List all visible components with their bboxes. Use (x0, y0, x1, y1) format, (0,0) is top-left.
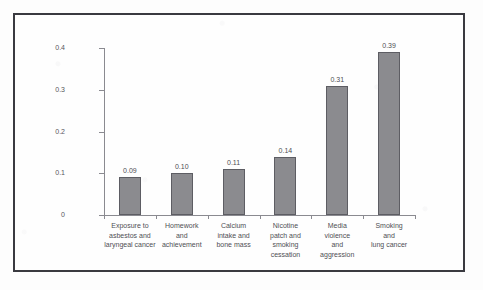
bar-value-label: 0.10 (175, 163, 189, 170)
bar-series: 0.090.100.110.140.310.39 (104, 48, 415, 215)
y-axis-tick-label: 0.1 (25, 169, 65, 176)
bar[interactable] (119, 177, 141, 215)
x-axis-category-label: Mediaviolenceandaggression (311, 221, 363, 259)
category-label-line: Nicotine (260, 221, 312, 231)
category-label-line: intake and (208, 231, 260, 241)
y-axis-tick-label: 0 (25, 211, 65, 218)
category-label-line: and (156, 231, 208, 241)
bar-slot: 0.39 (363, 48, 415, 215)
bar-slot: 0.09 (104, 48, 156, 215)
x-axis-category-labels: Exposure toasbestos andlaryngeal cancerH… (104, 221, 415, 271)
x-axis-tick (208, 215, 209, 219)
bar-value-label: 0.11 (227, 159, 240, 166)
bar-value-label: 0.14 (279, 147, 293, 154)
category-label-line: Exposure to (104, 221, 156, 231)
category-label-line: Calcium (208, 221, 260, 231)
chart-frame-border: 00.10.20.30.4 0.090.100.110.140.310.39 E… (13, 13, 465, 272)
category-label-line: and (363, 231, 415, 241)
x-axis-category-label: Exposure toasbestos andlaryngeal cancer (104, 221, 156, 250)
category-label-line: violence (311, 231, 363, 241)
bar[interactable] (223, 169, 245, 215)
bar[interactable] (274, 157, 296, 215)
bar-slot: 0.14 (260, 48, 312, 215)
category-label-line: Media (311, 221, 363, 231)
bar[interactable] (171, 173, 193, 215)
category-label-line: Homework (156, 221, 208, 231)
bar-slot: 0.31 (311, 48, 363, 215)
x-axis-category-label: Nicotinepatch andsmokingcessation (260, 221, 312, 259)
y-axis-tick-label: 0.2 (25, 128, 65, 135)
bar-value-label: 0.39 (382, 42, 396, 49)
bar-slot: 0.10 (156, 48, 208, 215)
category-label-line: bone mass (208, 240, 260, 250)
x-axis-tick (104, 215, 105, 219)
category-label-line: patch and (260, 231, 312, 241)
bar-value-label: 0.09 (123, 167, 137, 174)
category-label-line: smoking (260, 240, 312, 250)
x-axis-tick (260, 215, 261, 219)
x-axis-category-label: Smokingandlung cancer (363, 221, 415, 250)
x-axis-tick (363, 215, 364, 219)
plot-area: 00.10.20.30.4 0.090.100.110.140.310.39 E… (15, 15, 467, 274)
category-label-line: achievement (156, 240, 208, 250)
x-axis-category-label: Homeworkandachievement (156, 221, 208, 250)
x-axis-tick (311, 215, 312, 219)
category-label-line: cessation (260, 250, 312, 260)
x-axis-category-label: Calciumintake andbone mass (208, 221, 260, 250)
bar-slot: 0.11 (208, 48, 260, 215)
category-label-line: and (311, 240, 363, 250)
x-axis-tick (156, 215, 157, 219)
bar[interactable] (326, 86, 348, 215)
x-axis-tick (415, 215, 416, 219)
category-label-line: aggression (311, 250, 363, 260)
y-axis-tick-label: 0.3 (25, 86, 65, 93)
bar-value-label: 0.31 (330, 76, 344, 83)
bar[interactable] (378, 52, 400, 215)
category-label-line: laryngeal cancer (104, 240, 156, 250)
y-axis-tick-label: 0.4 (25, 44, 65, 51)
category-label-line: Smoking (363, 221, 415, 231)
category-label-line: asbestos and (104, 231, 156, 241)
category-label-line: lung cancer (363, 240, 415, 250)
chart-page: 00.10.20.30.4 0.090.100.110.140.310.39 E… (0, 0, 483, 290)
